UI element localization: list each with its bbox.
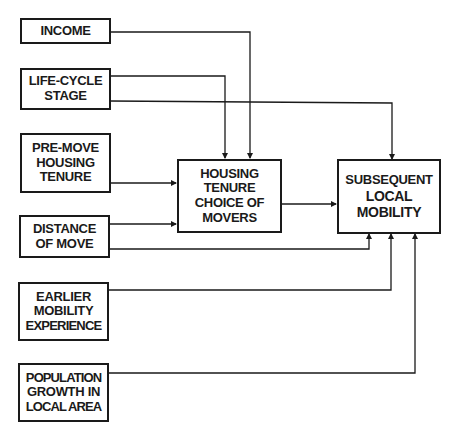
node-label: MOBILITY — [357, 204, 421, 221]
node-label: DISTANCE — [33, 222, 96, 237]
node-label: HOUSING — [36, 156, 95, 171]
node-label: LOCAL AREA — [26, 400, 102, 415]
edge-distance-subsequent — [110, 234, 369, 249]
node-label: EXPERIENCE — [26, 319, 102, 334]
node-earlier-mobility-experience: EARLIER MOBILITY EXPERIENCE — [18, 282, 109, 341]
node-label: INCOME — [40, 24, 90, 39]
edge-income-housing — [110, 32, 250, 158]
node-income: INCOME — [20, 18, 111, 44]
node-label: CHOICE OF — [195, 196, 265, 211]
edge-lifecycle-subsequent — [110, 101, 392, 159]
edge-earlier-subsequent — [108, 234, 391, 290]
node-label: SUBSEQUENT — [345, 172, 432, 188]
node-label: HOUSING — [200, 167, 259, 182]
node-life-cycle-stage: LIFE-CYCLE STAGE — [20, 68, 111, 110]
node-label: STAGE — [44, 89, 86, 104]
node-label: LIFE-CYCLE — [29, 74, 103, 89]
node-label: LOCAL — [366, 188, 413, 205]
node-label: EARLIER — [36, 290, 91, 305]
edge-lifecycle-housing — [110, 76, 225, 158]
node-pre-move-housing-tenure: PRE-MOVE HOUSING TENURE — [20, 133, 111, 193]
node-distance-of-move: DISTANCE OF MOVE — [19, 215, 110, 258]
node-housing-tenure-choice: HOUSING TENURE CHOICE OF MOVERS — [177, 159, 282, 233]
node-label: PRE-MOVE — [32, 141, 99, 156]
node-label: MOVERS — [202, 211, 257, 226]
node-label: POPULATION — [26, 371, 101, 386]
node-label: MOBILITY — [34, 304, 94, 319]
node-label: TENURE — [40, 170, 92, 185]
node-label: TENURE — [204, 181, 256, 196]
edge-population-subsequent — [108, 234, 415, 373]
node-label: GROWTH IN — [27, 385, 100, 400]
node-subsequent-local-mobility: SUBSEQUENT LOCAL MOBILITY — [337, 159, 441, 234]
node-label: OF MOVE — [36, 237, 94, 252]
node-population-growth: POPULATION GROWTH IN LOCAL AREA — [18, 363, 109, 422]
